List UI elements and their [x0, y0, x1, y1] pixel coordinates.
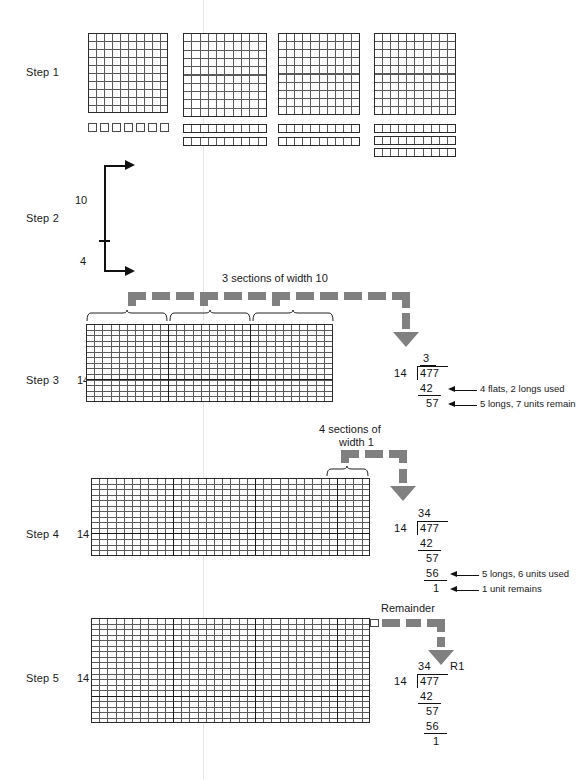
step1-group2-long-1: [183, 124, 267, 133]
step1-group3-long-2: [278, 137, 360, 146]
step5-divisor: 14: [394, 675, 407, 687]
step5-quotient: 34: [418, 660, 431, 672]
step-2-label: Step 2: [26, 212, 59, 224]
step3-difference: 57: [426, 397, 439, 409]
step3-quotient: 3: [423, 352, 429, 364]
step4-dividend: 477: [420, 522, 439, 534]
step2-vertical-spine: [104, 165, 106, 272]
step5-grid: [91, 618, 370, 723]
step3-dividend: 477: [420, 367, 439, 379]
step5-subtrahend-2: 56: [426, 720, 439, 732]
step4-section-divider-2: [255, 478, 256, 556]
step1-group1-flat: [88, 33, 168, 113]
step1-group2-flat: [183, 33, 267, 117]
step3-tens-divider: [86, 379, 333, 380]
step3-section-braces: [86, 310, 336, 322]
step4-note-a: 5 longs, 6 units used: [482, 568, 569, 580]
step3-subtrahend: 42: [420, 382, 433, 394]
step4-section-divider-1: [173, 478, 174, 556]
step2-bottom-horizontal: [104, 270, 126, 272]
step2-top-horizontal: [104, 165, 126, 167]
step4-section-divider-3: [337, 478, 338, 556]
step-4-label: Step 4: [26, 528, 59, 540]
step3-note-a: 4 flats, 2 longs used: [480, 383, 565, 395]
step5-section-divider-3: [337, 618, 338, 723]
step3-grid: [86, 324, 333, 402]
step1-group4-flat: [374, 33, 456, 115]
step5-dividend: 477: [420, 675, 439, 687]
step1-group4-long-2: [374, 136, 456, 145]
step4-difference-2: 1: [433, 582, 439, 594]
step5-difference-1: 57: [426, 705, 439, 717]
step4-note-b: 1 unit remains: [482, 583, 542, 595]
step4-subtrahend-1: 42: [420, 537, 433, 549]
step3-section-divider-1: [168, 324, 169, 402]
step1-group4-long-1: [374, 124, 456, 133]
step1-group2-long-2: [183, 137, 267, 146]
step2-top-arrowhead: [125, 160, 135, 170]
step4-caption-line2: width 1: [339, 436, 374, 448]
step4-divisor: 14: [394, 522, 407, 534]
step1-group3-flat: [278, 33, 360, 115]
step5-difference-2: 1: [433, 735, 439, 747]
step5-subtrahend-1: 42: [420, 690, 433, 702]
step2-upper-value: 10: [75, 194, 87, 206]
step4-quotient: 34: [418, 507, 431, 519]
step4-subtrahend-2: 56: [426, 567, 439, 579]
step2-lower-value: 4: [80, 255, 86, 267]
step1-group3-long-1: [278, 124, 360, 133]
step-3-label: Step 3: [26, 374, 59, 386]
step3-divisor: 14: [394, 367, 407, 379]
step3-note-b: 5 longs, 7 units remain: [480, 398, 576, 410]
step5-caption: Remainder: [381, 602, 435, 614]
step3-section-divider-2: [250, 324, 251, 402]
step2-split-tick: [99, 240, 110, 242]
step5-remainder-label: R1: [450, 660, 465, 672]
step4-tens-divider: [91, 533, 370, 534]
step4-grid: [91, 478, 370, 556]
step2-bottom-arrowhead: [125, 266, 135, 276]
step1-group4-long-3: [374, 148, 456, 157]
step5-tens-divider: [91, 696, 370, 697]
step5-remainder-unit: [370, 619, 379, 627]
step3-caption: 3 sections of width 10: [222, 272, 328, 284]
step5-section-divider-1: [173, 618, 174, 723]
step4-section-brace: [326, 466, 370, 477]
step5-height-label: 14: [77, 672, 89, 684]
step4-difference-1: 57: [426, 552, 439, 564]
step5-section-divider-2: [255, 618, 256, 723]
step4-height-label: 14: [77, 528, 89, 540]
step-1-label: Step 1: [26, 66, 59, 78]
step-5-label: Step 5: [26, 672, 59, 684]
step4-caption-line1: 4 sections of: [319, 423, 381, 435]
